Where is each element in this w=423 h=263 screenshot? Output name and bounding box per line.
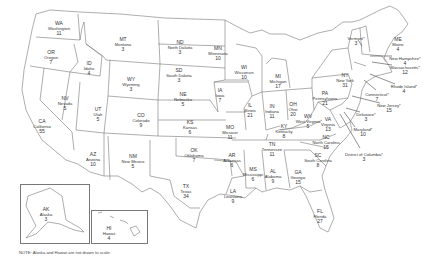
state-votes: 13 <box>321 127 335 132</box>
state-label-or: OROregon7 <box>44 50 58 66</box>
callout-votes: 7 <box>365 97 389 102</box>
state-label-sd: SDSouth Dakota3 <box>166 68 191 84</box>
callout-label-ct: Connecticut*7 <box>365 92 389 102</box>
state-label-tn: TNTennessee11 <box>262 142 282 158</box>
state-label-mt: MTMontana3 <box>115 37 131 53</box>
state-votes: 21 <box>244 113 256 118</box>
state-label-la: LALouisiana9 <box>224 189 242 205</box>
state-votes: 6 <box>243 177 263 182</box>
state-votes: 9 <box>133 123 150 128</box>
state-votes: 8 <box>304 163 332 168</box>
state-label-ok: OKOklahoma7 <box>184 148 203 164</box>
state-votes: 7 <box>216 98 225 103</box>
state-votes: 8 <box>275 134 292 139</box>
state-label-wy: WYWyoming3 <box>122 77 139 93</box>
state-votes: 31 <box>336 83 354 88</box>
state-label-nv: NVNevada5 <box>58 96 72 112</box>
state-label-ak: AKAlaska3 <box>40 207 53 223</box>
state-label-ny: NYNew York31 <box>336 73 354 89</box>
state-votes: 10 <box>86 162 100 167</box>
callout-votes: 3 <box>347 41 364 46</box>
state-label-id: IDIdaho4 <box>84 61 94 77</box>
state-label-al: ALAlabama9 <box>265 169 282 185</box>
state-votes: 7 <box>44 60 58 65</box>
state-label-ga: GAGeorgia15 <box>291 170 306 186</box>
state-votes: 6 <box>223 163 240 168</box>
callout-label-md: Maryland*10 <box>354 127 373 137</box>
scale-note: NOTE: Alaska and Hawaii are not drawn to… <box>19 250 111 255</box>
callout-label-de: Delaware*3 <box>356 112 375 122</box>
state-votes: 3 <box>122 87 139 92</box>
state-label-nm: NMNew Mexico5 <box>122 154 145 170</box>
callout-label-ma: Massachusetts*12 <box>390 65 420 75</box>
state-label-in: INIndiana11 <box>265 104 279 120</box>
state-label-sc: SCSouth Carolina8 <box>304 153 332 169</box>
state-label-me: MEMaine4 <box>392 37 403 53</box>
state-label-va: VAVirginia13 <box>321 117 335 133</box>
state-votes: 9 <box>265 179 282 184</box>
state-label-ca: CACalifornia55 <box>33 119 51 135</box>
state-label-mn: MNMinnesota10 <box>208 46 227 62</box>
state-label-mo: MOMissouri11 <box>222 125 238 141</box>
alaska-inset-frame <box>20 184 90 244</box>
state-votes: 4 <box>392 47 403 52</box>
state-label-ar: ARArkansas6 <box>223 153 240 169</box>
state-label-wa: WAWashington11 <box>48 21 70 37</box>
state-label-az: AZArizona10 <box>86 152 100 168</box>
state-label-nc: NCNorth Carolina15 <box>313 135 340 151</box>
state-label-fl: FLFlorida27 <box>314 209 327 225</box>
state-votes: 5 <box>296 124 321 129</box>
state-label-ne: NENebraska5 <box>174 92 192 108</box>
state-votes: 34 <box>181 194 192 199</box>
state-label-wv: WVWest Virginia5 <box>296 114 321 130</box>
state-label-co: COColorado9 <box>133 113 150 129</box>
state-votes: 5 <box>122 164 145 169</box>
state-votes: 4 <box>103 236 116 241</box>
callout-label-vt: Vermont*3 <box>347 36 364 46</box>
state-label-ms: MSMississippi6 <box>243 167 263 183</box>
state-votes: 10 <box>234 75 253 80</box>
callout-votes: 10 <box>354 132 373 137</box>
state-label-tx: TXTexas34 <box>181 184 192 200</box>
callout-label-dc: District of Columbia*3 <box>345 152 383 162</box>
state-label-mi: MIMichigan17 <box>270 74 287 90</box>
state-votes: 11 <box>262 152 282 157</box>
state-votes: 3 <box>168 50 193 55</box>
state-label-ia: IAIowa7 <box>216 88 225 104</box>
state-label-il: ILIllinois21 <box>244 103 256 119</box>
state-votes: 21 <box>313 101 338 106</box>
hawaii-inset-frame <box>91 210 148 244</box>
callout-votes: 3 <box>356 117 375 122</box>
state-votes: 10 <box>208 56 227 61</box>
callout-votes: 3 <box>345 157 383 162</box>
state-votes: 3 <box>115 47 131 52</box>
state-votes: 11 <box>265 114 279 119</box>
state-label-wi: WIWisconsin10 <box>234 65 253 81</box>
state-votes: 3 <box>166 78 191 83</box>
state-votes: 3 <box>40 217 53 222</box>
state-votes: 11 <box>48 31 70 36</box>
state-votes: 55 <box>33 129 51 134</box>
state-label-hi: HIHawaii4 <box>103 226 116 242</box>
state-label-pa: PAPennsylvania21 <box>313 91 338 107</box>
state-votes: 7 <box>184 158 203 163</box>
state-votes: 9 <box>224 199 242 204</box>
state-votes: 5 <box>174 102 192 107</box>
state-label-ks: KSKansas6 <box>183 120 197 136</box>
callout-votes: 4 <box>391 89 417 94</box>
callout-votes: 15 <box>377 108 401 113</box>
state-votes: 27 <box>314 219 327 224</box>
state-votes: 17 <box>270 84 287 89</box>
state-label-nd: NDNorth Dakota3 <box>168 40 193 56</box>
state-votes: 5 <box>94 117 103 122</box>
callout-label-nj: New Jersey*15 <box>377 103 401 113</box>
callout-label-ri: Rhode Island*4 <box>391 84 417 94</box>
state-votes: 5 <box>58 106 72 111</box>
state-votes: 11 <box>222 135 238 140</box>
state-votes: 15 <box>291 180 306 185</box>
state-label-ky: KYKentucky8 <box>275 124 292 140</box>
callout-votes: 12 <box>390 70 420 75</box>
state-votes: 4 <box>84 71 94 76</box>
state-label-ut: UTUtah5 <box>94 107 103 123</box>
state-votes: 6 <box>183 130 197 135</box>
